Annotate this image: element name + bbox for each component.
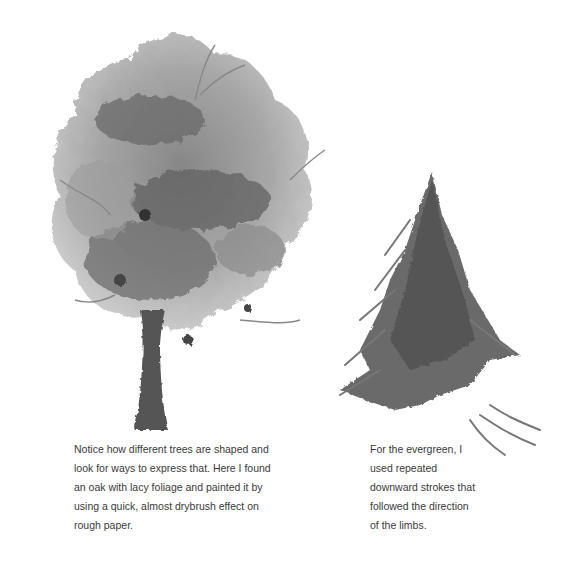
oak-caption: Notice how different trees are shaped an… (74, 440, 274, 535)
evergreen-caption: For the evergreen, I used repeated downw… (370, 440, 480, 535)
evergreen-tree-illustration (340, 172, 520, 410)
oak-tree-illustration (52, 34, 312, 329)
